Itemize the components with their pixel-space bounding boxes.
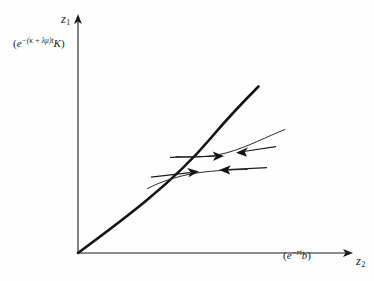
- x-intercept-expression-label: (e−rtb): [283, 249, 311, 261]
- phase-diagram-figure: z1 z2 (e−(κ + λμ)tK) (e−rtb): [0, 0, 374, 281]
- upper-right-arrow-shaft: [245, 147, 276, 152]
- x-expr-close-paren: ): [307, 249, 311, 261]
- y-expr-exponent: −(κ + λμ)t: [22, 36, 54, 45]
- lower-right-arrow-shaft: [228, 168, 267, 170]
- x-axis-label: z2: [356, 255, 365, 269]
- y-axis-label-subscript: 1: [66, 18, 70, 27]
- upper-saddle-path-curve: [176, 130, 285, 158]
- y-axis: [74, 14, 82, 253]
- x-axis: [78, 249, 353, 257]
- y-expr-close-paren: ): [61, 37, 65, 49]
- y-expr-tail: K: [54, 37, 61, 49]
- x-axis-label-subscript: 2: [361, 260, 365, 269]
- x-expr-exponent: −rt: [292, 248, 302, 257]
- y-intercept-expression-label: (e−(κ + λμ)tK): [13, 37, 65, 49]
- y-axis-label: z1: [61, 13, 70, 27]
